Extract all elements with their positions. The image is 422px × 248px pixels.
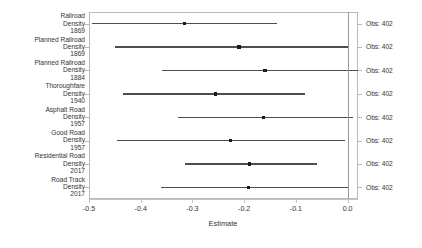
y-axis-label-line: 2017 bbox=[35, 167, 85, 174]
y-axis-tick bbox=[85, 70, 89, 71]
y-axis-tick bbox=[85, 141, 89, 142]
y-axis-label-line: Planned Railroad bbox=[34, 36, 85, 43]
y-axis-category-label: Planned RailroadDensity1869 bbox=[34, 36, 85, 58]
x-axis-tick bbox=[296, 199, 297, 203]
y-axis-label-line: Residential Road bbox=[35, 152, 85, 159]
y-axis-category-label: Residential RoadDensity2017 bbox=[35, 152, 85, 174]
observation-tick bbox=[358, 70, 362, 71]
estimate-point bbox=[214, 92, 217, 95]
confidence-interval-bar bbox=[161, 187, 347, 188]
y-axis-label-line: 1957 bbox=[45, 120, 85, 127]
y-axis-tick bbox=[85, 164, 89, 165]
x-axis-tick bbox=[192, 199, 193, 203]
y-axis-category-label: ThoroughfareDensity1940 bbox=[45, 82, 85, 104]
y-axis-category-label: Planned RailroadDensity1884 bbox=[34, 59, 85, 81]
y-axis-label-line: 1957 bbox=[51, 144, 85, 151]
observation-tick bbox=[358, 94, 362, 95]
zero-reference-line bbox=[348, 12, 349, 199]
estimate-point bbox=[183, 22, 186, 25]
x-axis-tick-label: -0.3 bbox=[186, 205, 198, 214]
y-axis-label-line: 2017 bbox=[51, 190, 85, 197]
x-axis-tick bbox=[89, 199, 90, 203]
y-axis-label-line: Density bbox=[34, 43, 85, 50]
observation-tick bbox=[358, 47, 362, 48]
y-axis-label-line: Density bbox=[45, 113, 85, 120]
observation-count-label: Obs: 402 bbox=[366, 90, 393, 97]
y-axis-tick bbox=[85, 47, 89, 48]
y-axis-label-line: Density bbox=[45, 90, 85, 97]
observation-count-label: Obs: 402 bbox=[366, 43, 393, 50]
observation-count-label: Obs: 402 bbox=[366, 20, 393, 27]
x-axis-tick-label: -0.5 bbox=[83, 205, 95, 214]
x-axis-title: Estimate bbox=[209, 219, 238, 228]
confidence-interval-bar bbox=[178, 117, 353, 118]
y-axis-label-line: 1884 bbox=[34, 74, 85, 81]
estimate-point bbox=[237, 45, 240, 48]
y-axis-label-line: Density bbox=[51, 136, 85, 143]
y-axis-label-line: Planned Railroad bbox=[34, 59, 85, 66]
y-axis-tick bbox=[85, 94, 89, 95]
observation-tick bbox=[358, 117, 362, 118]
y-axis-category-label: Good RoadDensity1957 bbox=[51, 129, 85, 151]
observation-count-label: Obs: 402 bbox=[366, 184, 393, 191]
x-axis-tick bbox=[244, 199, 245, 203]
x-axis-tick-label: -0.4 bbox=[135, 205, 147, 214]
observation-count-label: Obs: 402 bbox=[366, 160, 393, 167]
y-axis-label-line: 1940 bbox=[45, 97, 85, 104]
observation-count-label: Obs: 402 bbox=[366, 137, 393, 144]
estimate-point bbox=[247, 186, 250, 189]
x-axis-line bbox=[89, 199, 358, 200]
estimate-point bbox=[262, 116, 265, 119]
x-axis-tick-label: -0.2 bbox=[238, 205, 250, 214]
confidence-interval-bar bbox=[162, 70, 358, 71]
y-axis-category-label: Asphalt RoadDensity1957 bbox=[45, 106, 85, 128]
forest-plot-figure: -0.5-0.4-0.3-0.2-0.10.0 Estimate Railroa… bbox=[0, 0, 422, 248]
y-axis-category-label: Road TrackDensity2017 bbox=[51, 176, 85, 198]
y-axis-label-line: Road Track bbox=[51, 176, 85, 183]
y-axis-category-label: RailroadDensity1869 bbox=[60, 12, 85, 34]
estimate-point bbox=[263, 69, 266, 72]
y-axis-label-line: Density bbox=[35, 160, 85, 167]
y-axis-label-line: Thoroughfare bbox=[45, 82, 85, 89]
x-axis-tick bbox=[141, 199, 142, 203]
observation-count-label: Obs: 402 bbox=[366, 67, 393, 74]
y-axis-tick bbox=[85, 24, 89, 25]
y-axis-label-line: Density bbox=[60, 20, 85, 27]
y-axis-label-line: 1869 bbox=[60, 27, 85, 34]
x-axis-tick bbox=[348, 199, 349, 203]
y-axis-label-line: Railroad bbox=[60, 12, 85, 19]
observation-tick bbox=[358, 187, 362, 188]
y-axis-label-line: 1869 bbox=[34, 50, 85, 57]
observation-tick bbox=[358, 141, 362, 142]
y-axis-label-line: Good Road bbox=[51, 129, 85, 136]
confidence-interval-bar bbox=[115, 46, 348, 47]
observation-tick bbox=[358, 164, 362, 165]
observation-tick bbox=[358, 24, 362, 25]
y-axis-label-line: Density bbox=[51, 183, 85, 190]
y-axis-label-line: Asphalt Road bbox=[45, 106, 85, 113]
y-axis-label-line: Density bbox=[34, 66, 85, 73]
y-axis-tick bbox=[85, 187, 89, 188]
x-axis-tick-label: -0.1 bbox=[290, 205, 302, 214]
estimate-point bbox=[229, 139, 232, 142]
y-axis-tick bbox=[85, 117, 89, 118]
estimate-point bbox=[248, 162, 251, 165]
x-axis-tick-label: 0.0 bbox=[343, 205, 353, 214]
observation-count-label: Obs: 402 bbox=[366, 114, 393, 121]
